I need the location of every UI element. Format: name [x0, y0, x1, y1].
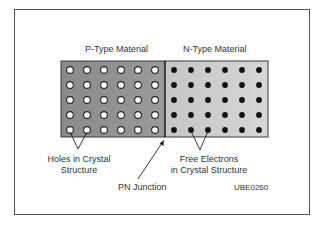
n-type-title: N-Type Material — [183, 44, 247, 55]
free-electron — [256, 67, 262, 73]
hole — [152, 82, 159, 89]
free-electron — [188, 67, 194, 73]
hole — [101, 97, 108, 104]
hole — [101, 127, 108, 134]
free-electron — [222, 67, 228, 73]
free-electron — [256, 97, 262, 103]
hole — [135, 112, 142, 119]
free-electron — [188, 82, 194, 88]
n-type-region — [165, 61, 268, 137]
hole — [118, 127, 125, 134]
hole — [84, 112, 91, 119]
free-electron — [205, 97, 211, 103]
free-electron — [239, 112, 245, 118]
holes-label-line2: Structure — [44, 165, 114, 176]
free-electron — [205, 112, 211, 118]
hole — [118, 97, 125, 104]
hole — [101, 112, 108, 119]
free-electron — [239, 82, 245, 88]
electrons-label-line2: in Crystal Structure — [164, 165, 254, 176]
free-electron — [205, 67, 211, 73]
hole — [152, 97, 159, 104]
free-electron — [171, 67, 177, 73]
free-electron — [171, 112, 177, 118]
hole — [84, 82, 91, 89]
free-electron — [205, 82, 211, 88]
hole — [152, 112, 159, 119]
hole — [152, 127, 159, 134]
free-electron — [256, 82, 262, 88]
figure-code: UBE0260 — [234, 182, 268, 193]
hole — [135, 97, 142, 104]
hole — [135, 67, 142, 74]
holes-label: Holes in Crystal Structure — [44, 154, 114, 176]
hole — [84, 67, 91, 74]
free-electron — [239, 67, 245, 73]
free-electron — [188, 97, 194, 103]
free-electron — [188, 112, 194, 118]
hole — [135, 82, 142, 89]
hole — [67, 97, 74, 104]
free-electron — [222, 112, 228, 118]
holes-label-line1: Holes in Crystal — [44, 154, 114, 165]
hole — [152, 67, 159, 74]
free-electron — [239, 97, 245, 103]
free-electron — [171, 97, 177, 103]
hole — [84, 97, 91, 104]
free-electron — [171, 127, 177, 133]
pn-junction-label: PN Junction — [118, 182, 167, 193]
p-type-region — [61, 61, 165, 137]
free-electron — [239, 127, 245, 133]
free-electron — [222, 97, 228, 103]
electrons-label-line1: Free Electrons — [164, 154, 254, 165]
hole — [101, 82, 108, 89]
free-electron — [222, 82, 228, 88]
hole — [118, 112, 125, 119]
hole — [67, 67, 74, 74]
hole — [118, 82, 125, 89]
electrons-label: Free Electrons in Crystal Structure — [164, 154, 254, 176]
hole — [67, 112, 74, 119]
hole — [101, 67, 108, 74]
free-electron — [256, 112, 262, 118]
hole — [135, 127, 142, 134]
hole — [118, 67, 125, 74]
hole — [67, 82, 74, 89]
p-type-title: P-Type Material — [85, 44, 148, 55]
free-electron — [222, 127, 228, 133]
free-electron — [171, 82, 177, 88]
free-electron — [256, 127, 262, 133]
junction-arrow — [138, 140, 164, 179]
